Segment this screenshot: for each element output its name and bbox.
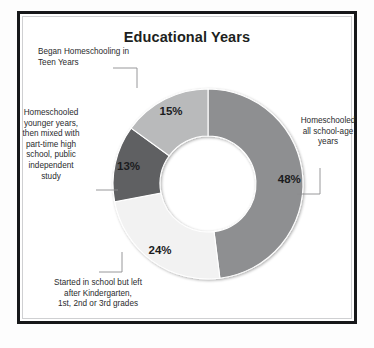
callout-label-teen-years: Began Homeschooling in Teen Years: [38, 47, 154, 68]
callout-label-started-in-school: Started in school but left after Kinderg…: [20, 278, 176, 310]
callout-label-mixed-part-time: Homeschooled younger years, then mixed w…: [8, 108, 94, 182]
donut-value-label-teen-years: 15%: [159, 105, 182, 117]
page-title: Educational Years: [23, 29, 351, 45]
donut-value-label-all-school-age: 48%: [278, 173, 301, 185]
donut-slice-teen-years[interactable]: [131, 89, 208, 156]
donut-value-label-started-in-school: 24%: [149, 244, 172, 256]
page-background: Educational Years: [0, 0, 374, 348]
callout-label-all-school-age: Homeschooled all school-age years: [288, 116, 368, 148]
donut-value-label-mixed-part-time: 13%: [117, 160, 140, 172]
donut-slice-mixed-part-time[interactable]: [113, 128, 169, 202]
donut-slice-started-in-school[interactable]: [115, 193, 220, 279]
